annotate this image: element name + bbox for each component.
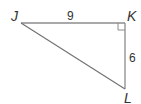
side-label-jk: 9	[67, 9, 74, 23]
side-jl	[21, 23, 125, 89]
side-label-kl: 6	[129, 51, 136, 65]
triangle	[21, 23, 125, 89]
vertex-label-j: J	[10, 8, 19, 24]
right-angle-marker	[118, 23, 125, 30]
vertex-label-l: L	[124, 90, 132, 104]
triangle-diagram: J K L 9 6	[0, 0, 141, 104]
vertex-label-k: K	[127, 8, 137, 24]
